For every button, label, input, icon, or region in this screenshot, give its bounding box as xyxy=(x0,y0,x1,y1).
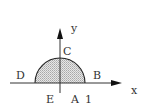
x-axis-arrow-icon xyxy=(111,80,122,86)
point-e-label: E xyxy=(46,93,54,106)
y-axis-label: y xyxy=(70,22,78,35)
point-b-label: B xyxy=(93,69,101,82)
point-d-label: D xyxy=(16,69,25,82)
diagram-canvas: y x C D B E A 1 xyxy=(0,0,149,109)
tick-label-1: 1 xyxy=(85,93,92,106)
x-axis-label: x xyxy=(131,84,138,97)
y-axis-arrow-icon xyxy=(57,28,63,39)
point-a-label: A xyxy=(70,93,80,106)
point-c-label: C xyxy=(63,45,71,58)
